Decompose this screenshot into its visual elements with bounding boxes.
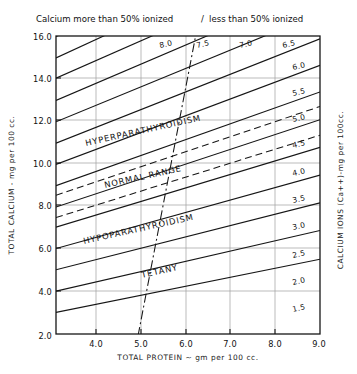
title-right-text: less than 50% ionized bbox=[209, 14, 303, 24]
nomogram-chart: Calcium more than 50% ionized / less tha… bbox=[0, 0, 357, 374]
x-tick-label-9.0: 9.0 bbox=[312, 339, 326, 349]
y-tick-label-14.0: 14.0 bbox=[33, 74, 52, 84]
x-tick-label-5.0: 5.0 bbox=[134, 339, 148, 349]
y-tick-label-12.0: 12.0 bbox=[33, 116, 52, 126]
y-tick-label-16.0: 16.0 bbox=[33, 32, 52, 42]
chart-svg: Calcium more than 50% ionized / less tha… bbox=[0, 0, 357, 374]
x-tick-label-7.0: 7.0 bbox=[223, 339, 237, 349]
y-axis-title-left: TOTAL CALCIUM - mg per 100 cc. bbox=[7, 116, 16, 256]
y-tick-label-8.0: 8.0 bbox=[38, 201, 52, 211]
x-tick-label-4.0: 4.0 bbox=[89, 339, 103, 349]
y-axis-title-right: CALCIUM IONS (Ca++)-mg per 100cc. bbox=[336, 111, 345, 269]
title-divider-text: / bbox=[201, 14, 204, 24]
y-tick-label-10.0: 10.0 bbox=[33, 159, 52, 169]
y-tick-label-2.0: 2.0 bbox=[38, 331, 52, 341]
y-tick-label-4.0: 4.0 bbox=[38, 287, 52, 297]
y-tick-label-6.0: 6.0 bbox=[38, 244, 52, 254]
x-tick-label-8.0: 8.0 bbox=[268, 339, 282, 349]
title-left-text: Calcium more than 50% ionized bbox=[36, 14, 173, 24]
x-axis-title: TOTAL PROTEIN ~ gm per 100 cc. bbox=[116, 353, 258, 362]
chart-background bbox=[0, 0, 357, 374]
x-tick-label-6.0: 6.0 bbox=[179, 339, 193, 349]
